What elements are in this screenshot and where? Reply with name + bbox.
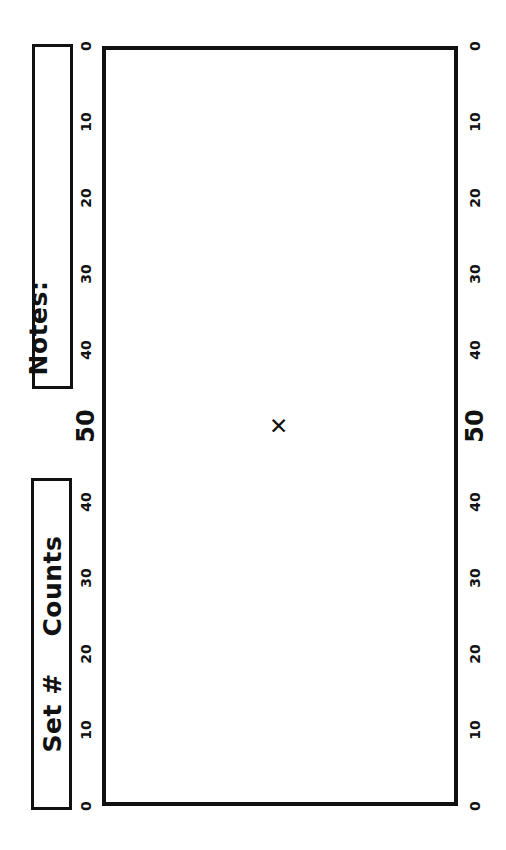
set-counts-box[interactable]: Set # Counts: [31, 478, 72, 810]
axis-tick-text: 20: [79, 188, 93, 207]
axis-tick-text: 10: [468, 720, 482, 739]
axis-tick-text: 30: [79, 264, 93, 283]
axis-tick-text: 20: [468, 644, 482, 663]
chart-form-page: Notes: Set # Counts 01020304050403020100…: [0, 0, 506, 850]
axis-left: 01020304050403020100: [74, 46, 98, 806]
axis-tick-text: 10: [79, 112, 93, 131]
axis-tick-text: 30: [468, 568, 482, 587]
data-point-marker: ✕: [269, 416, 289, 436]
axis-tick-text: 0: [468, 41, 482, 51]
axis-tick-text: 40: [468, 492, 482, 511]
axis-tick-text: 0: [468, 801, 482, 811]
axis-tick-text: 50: [74, 409, 98, 442]
axis-tick-text: 50: [463, 409, 487, 442]
axis-tick-text: 20: [468, 188, 482, 207]
axis-tick-text: 30: [468, 264, 482, 283]
set-counts-label: Set # Counts: [37, 536, 66, 753]
axis-tick-text: 0: [79, 801, 93, 811]
notes-box[interactable]: Notes:: [32, 44, 73, 389]
axis-right: 01020304050403020100: [462, 46, 488, 806]
axis-tick-text: 0: [79, 41, 93, 51]
plot-area[interactable]: ✕: [102, 46, 458, 806]
axis-tick-text: 10: [468, 112, 482, 131]
notes-label: Notes:: [24, 281, 53, 376]
axis-tick-text: 40: [79, 492, 93, 511]
axis-tick-text: 20: [79, 644, 93, 663]
axis-tick-text: 30: [79, 568, 93, 587]
axis-tick-text: 40: [468, 340, 482, 359]
axis-tick-text: 10: [79, 720, 93, 739]
axis-tick-text: 40: [79, 340, 93, 359]
